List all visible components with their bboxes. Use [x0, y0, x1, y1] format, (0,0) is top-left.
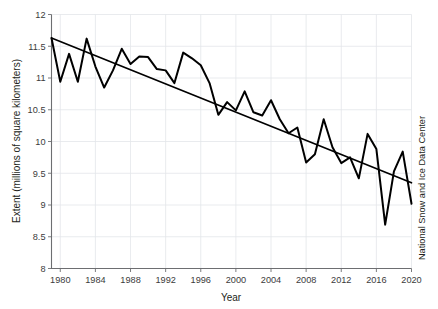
x-tick-label: 2000 [226, 275, 246, 285]
y-tick-label: 11 [36, 73, 46, 83]
y-tick-label: 9 [40, 200, 45, 210]
x-tick-label: 2016 [366, 275, 386, 285]
y-tick-label: 12 [35, 10, 45, 20]
x-tick-label: 2004 [261, 275, 281, 285]
y-tick-label: 10.5 [28, 105, 46, 115]
x-tick-label: 1980 [50, 275, 70, 285]
x-tick-label: 2020 [401, 275, 421, 285]
x-tick-label: 1984 [85, 275, 105, 285]
x-tick-label: 1988 [120, 275, 140, 285]
y-tick-label: 8 [40, 264, 45, 274]
sea-ice-extent-chart: 88.599.51010.51111.512 19801984198819921… [0, 0, 438, 309]
x-tick-label: 2008 [296, 275, 316, 285]
data-source-credit: National Snow and Ice Data Center [417, 116, 427, 260]
y-axis-title: Extent (millions of square kilometers) [11, 59, 22, 223]
y-tick-label: 9.5 [33, 169, 46, 179]
x-tick-label: 1992 [155, 275, 175, 285]
y-tick-label: 11.5 [28, 42, 45, 52]
y-tick-label: 10 [35, 137, 45, 147]
y-tick-label: 8.5 [33, 232, 46, 242]
x-tick-label: 1996 [191, 275, 211, 285]
x-tick-label: 2012 [331, 275, 351, 285]
x-axis-title: Year [221, 292, 242, 303]
